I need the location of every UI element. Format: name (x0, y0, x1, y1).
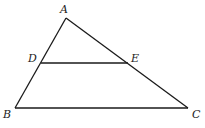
label-e: E (130, 52, 139, 65)
label-a: A (59, 3, 68, 16)
label-b: B (2, 108, 11, 121)
label-c: C (192, 108, 201, 121)
triangle-diagram: A D E B C (0, 0, 205, 128)
label-d: D (27, 52, 37, 65)
